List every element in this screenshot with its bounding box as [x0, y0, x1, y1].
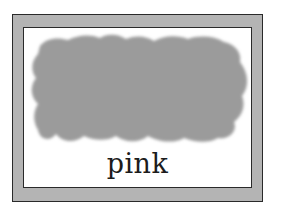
color-card-frame: pink [12, 14, 263, 202]
color-name-label: pink [24, 148, 251, 179]
color-card-inner: pink [23, 27, 252, 188]
color-swatch [28, 32, 250, 148]
